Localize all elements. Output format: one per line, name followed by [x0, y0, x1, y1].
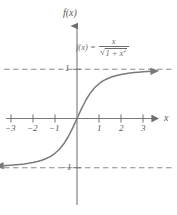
x-tick-label-2: 2	[119, 124, 124, 133]
function-graph-figure: f(x) x 1 −1 −3 −2 −1 1 2 3 f(x) = x √ 1 …	[0, 0, 177, 215]
x-tick-label-minus-2: −2	[27, 124, 38, 133]
equation-fraction: x √ 1 + x2	[99, 37, 129, 58]
x-tick-label-minus-3: −3	[5, 124, 16, 133]
equation-numerator: x	[107, 37, 121, 46]
y-tick-label-1: 1	[65, 64, 70, 73]
x-axis-label: x	[164, 113, 168, 123]
equation-annotation: f(x) = x √ 1 + x2	[76, 37, 129, 58]
y-axis-label: f(x)	[63, 8, 77, 18]
equation-radicand-base: 1 + x	[105, 48, 123, 58]
equation-radicand-exponent: 2	[123, 47, 126, 53]
x-tick-label-1: 1	[97, 124, 102, 133]
plot-canvas	[0, 0, 177, 215]
x-tick-label-3: 3	[141, 124, 146, 133]
equation-lhs: f(x) =	[76, 43, 96, 52]
y-tick-label-minus-1: −1	[61, 163, 72, 172]
x-tick-label-minus-1: −1	[49, 124, 60, 133]
equation-radicand: 1 + x2	[105, 48, 128, 58]
equation-denominator: √ 1 + x2	[100, 47, 127, 58]
